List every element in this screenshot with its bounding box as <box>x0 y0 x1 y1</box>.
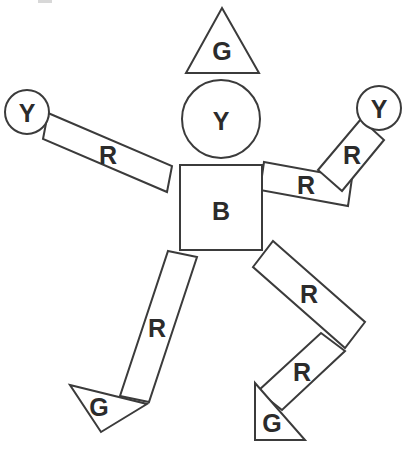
part-head-circle[interactable]: Y <box>182 80 260 158</box>
right-foot-triangle-label: G <box>262 409 281 437</box>
part-torso-square[interactable]: B <box>180 165 262 250</box>
right-hand-circle-label: Y <box>371 95 388 123</box>
torso-square-label: B <box>212 197 230 225</box>
head-circle-label: Y <box>213 107 230 135</box>
right-thigh-rectangle-label: R <box>300 280 318 308</box>
part-right-hand-circle[interactable]: Y <box>357 86 401 130</box>
left-leg-rectangle-label: R <box>148 314 166 342</box>
right-shin-rectangle-label: R <box>293 358 311 386</box>
top-edge-artifact <box>38 0 52 3</box>
right-forearm-rectangle-label: R <box>343 141 361 169</box>
left-arm-rectangle-label: R <box>99 141 117 169</box>
left-hand-circle-label: Y <box>19 99 36 127</box>
part-left-hand-circle[interactable]: Y <box>5 90 49 134</box>
stick-figure-diagram: G Y R Y R R Y R G R <box>0 0 412 463</box>
hat-triangle-label: G <box>212 37 231 65</box>
right-upper-arm-rectangle-label: R <box>297 171 315 199</box>
left-foot-triangle-label: G <box>89 393 108 421</box>
